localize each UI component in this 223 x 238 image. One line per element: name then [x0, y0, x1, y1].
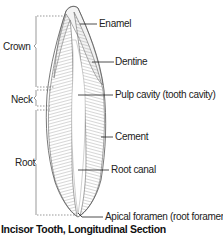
- label-neck: Neck: [11, 94, 33, 105]
- label-dentine: Dentine: [115, 56, 147, 67]
- label-apical-foramen: Apical foramen (root foramen): [105, 211, 223, 222]
- tooth-diagram: [0, 0, 223, 238]
- label-root: Root: [15, 157, 35, 168]
- label-crown: Crown: [3, 41, 30, 52]
- label-enamel: Enamel: [99, 18, 131, 29]
- figure-caption: Incisor Tooth, Longitudinal Section: [1, 223, 166, 235]
- label-pulp-cavity: Pulp cavity (tooth cavity): [115, 89, 216, 100]
- label-cement: Cement: [115, 131, 148, 142]
- label-root-canal: Root canal: [111, 164, 156, 175]
